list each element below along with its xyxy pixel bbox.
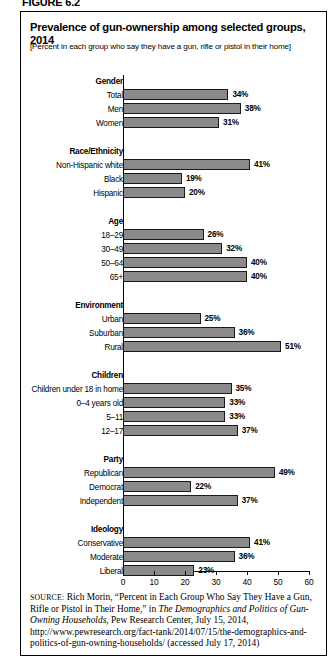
bar-row: Moderate36% (21, 551, 326, 565)
bar-category-label: Non-Hispanic white (3, 160, 123, 171)
bar-category-label: Independent (3, 496, 123, 507)
bar (123, 495, 238, 506)
bar-value-label: 35% (236, 383, 252, 394)
bar-value-label: 36% (239, 327, 255, 338)
bar-row: 0–4 years old33% (21, 397, 326, 411)
bar-group-heading: Children (21, 369, 326, 383)
bar-value-label: 20% (189, 187, 205, 198)
bar-group-heading: Party (21, 453, 326, 467)
bar (123, 565, 194, 576)
bar-group-heading: Environment (21, 299, 326, 313)
bar-row: Conservative41% (21, 537, 326, 551)
group-label: Race/Ethnicity (3, 146, 123, 157)
bar-value-label: 33% (229, 397, 245, 408)
bar-value-label: 32% (226, 243, 242, 254)
x-axis-tick (154, 571, 155, 575)
group-label: Ideology (3, 524, 123, 535)
bar-category-label: Total (3, 90, 123, 101)
bar-group-heading: Race/Ethnicity (21, 145, 326, 159)
bar-category-label: 65+ (3, 272, 123, 283)
bar-row: Urban25% (21, 313, 326, 327)
bar-value-label: 22% (195, 481, 211, 492)
group-label: Party (3, 454, 123, 465)
bar (123, 257, 247, 268)
bar (123, 425, 238, 436)
bar-value-label: 19% (186, 173, 202, 184)
bar (123, 229, 204, 240)
x-axis-tick (278, 571, 279, 575)
bar (123, 103, 241, 114)
bar (123, 159, 250, 170)
source-note: SOURCE: Rich Morin, “Percent in Each Gro… (30, 592, 318, 650)
group-label: Gender (3, 76, 123, 87)
source-prefix: SOURCE: (30, 593, 64, 602)
bar-category-label: Urban (3, 314, 123, 325)
x-axis-tick-label: 20 (175, 577, 195, 587)
bar (123, 313, 201, 324)
bar (123, 243, 222, 254)
bar-row: 5–1133% (21, 411, 326, 425)
bar (123, 481, 191, 492)
bar-row: 30–4932% (21, 243, 326, 257)
bar-value-label: 49% (279, 467, 295, 478)
bar (123, 467, 275, 478)
bar-value-label: 40% (251, 271, 267, 282)
bar (123, 89, 228, 100)
bar-category-label: Hispanic (3, 188, 123, 199)
bar-category-label: 12–17 (3, 426, 123, 437)
bar (123, 173, 182, 184)
bar (123, 341, 281, 352)
bar-category-label: 5–11 (3, 412, 123, 423)
bar (123, 271, 247, 282)
bar-category-label: Rural (3, 342, 123, 353)
bar (123, 383, 232, 394)
bar-category-label: Liberal (3, 566, 123, 577)
bar-value-label: 37% (242, 495, 258, 506)
bar-value-label: 51% (285, 341, 301, 352)
bar-row: Men38% (21, 103, 326, 117)
bar (123, 551, 235, 562)
bar-row: 18–2926% (21, 229, 326, 243)
bar-category-label: Black (3, 174, 123, 185)
bar-category-label: Republican (3, 468, 123, 479)
bar-row: Children under 18 in home35% (21, 383, 326, 397)
bar-category-label: 0–4 years old (3, 398, 123, 409)
bar-row: Rural51% (21, 341, 326, 355)
x-axis-tick (216, 571, 217, 575)
bar-value-label: 26% (208, 229, 224, 240)
bar-value-label: 40% (251, 257, 267, 268)
x-axis-tick (123, 571, 124, 575)
chart-plot-area: GenderTotal34%Men38%Women31%Race/Ethnici… (21, 75, 326, 577)
bar (123, 397, 225, 408)
x-axis-tick-label: 60 (299, 577, 319, 587)
group-label: Age (3, 216, 123, 227)
figure-label: FIGURE 6.2 (22, 0, 80, 8)
bar-row: Suburban36% (21, 327, 326, 341)
bar-row: 12–1737% (21, 425, 326, 439)
bar-row: Hispanic20% (21, 187, 326, 201)
bar-category-label: Moderate (3, 552, 123, 563)
bar-group-heading: Age (21, 215, 326, 229)
x-axis-tick-label: 30 (206, 577, 226, 587)
group-label: Environment (3, 300, 123, 311)
bar (123, 327, 235, 338)
bar (123, 411, 225, 422)
x-axis-tick (309, 571, 310, 575)
bar-row: 50–6440% (21, 257, 326, 271)
bar (123, 187, 185, 198)
x-axis-tick-label: 40 (237, 577, 257, 587)
bar-value-label: 34% (232, 89, 248, 100)
bar-group-heading: Gender (21, 75, 326, 89)
bar (123, 537, 250, 548)
bar-row: Total34% (21, 89, 326, 103)
bar-value-label: 41% (254, 537, 270, 548)
group-label: Children (3, 370, 123, 381)
bar-row: Women31% (21, 117, 326, 131)
chart-subtitle: [Percent in each group who say they have… (30, 42, 322, 52)
bar-category-label: 18–29 (3, 230, 123, 241)
x-axis-tick (185, 571, 186, 575)
bar-row: Republican49% (21, 467, 326, 481)
figure-panel: Prevalence of gun-ownership among select… (20, 11, 327, 656)
bar-value-label: 41% (254, 159, 270, 170)
bar-value-label: 23% (198, 565, 214, 576)
